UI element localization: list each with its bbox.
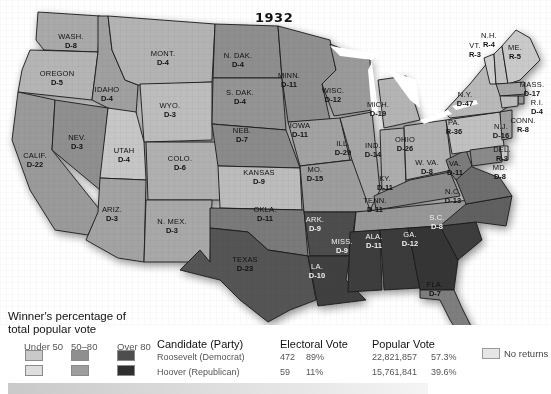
label-no-returns: No returns [504, 348, 548, 359]
label-mich: MICH.D-19 [367, 101, 389, 118]
legend-heading-line2: total popular vote [8, 323, 126, 336]
label-ind: IND.D-14 [365, 142, 381, 159]
legend-heading-line1: Winner's percentage of [8, 310, 126, 323]
label-ga: GA.D-12 [402, 231, 418, 248]
label-ark: ARK.D-9 [306, 216, 324, 233]
cell-pvpct-hoover: 39.6% [431, 367, 457, 377]
label-minn: MINN.D-11 [278, 72, 300, 89]
label-kansas: KANSASD-9 [243, 169, 275, 186]
label-nc: N.C.D-13 [445, 188, 461, 205]
label-del: DEL.R-3 [493, 146, 510, 163]
label-ndak: N. DAK.D-4 [224, 52, 253, 69]
label-tenn: TENN.D-11 [363, 197, 387, 214]
swatch-dem-50-80 [71, 350, 89, 361]
label-ky: KY.D-11 [377, 175, 393, 192]
label-calif: CALIF.D-22 [23, 152, 47, 169]
label-mo: MO.D-15 [307, 166, 323, 183]
swatch-rep-over80 [117, 365, 135, 376]
cell-pv-roosevelt: 22,821,857 [372, 352, 417, 362]
label-utah: UTAHD-4 [114, 147, 135, 164]
label-ala: ALA.D-11 [365, 233, 382, 250]
label-mass: MASS.D-17 [520, 81, 544, 98]
label-wisc: WISC.D-12 [322, 87, 345, 104]
label-wyo: WYO.D-3 [160, 102, 181, 119]
page-edge-strip [8, 383, 428, 394]
legend-heading: Winner's percentage of total popular vot… [8, 310, 126, 336]
header-candidate: Candidate (Party) [157, 338, 243, 350]
swatch-rep-50-80 [71, 365, 89, 376]
label-va: VA.D-11 [447, 160, 463, 177]
cell-ev-hoover: 59 [280, 367, 290, 377]
label-ohio: OHIOD-26 [395, 136, 415, 153]
label-conn: CONN.R-8 [510, 117, 535, 134]
label-neb: NEB.D-7 [233, 127, 251, 144]
label-vt: VT.R-3 [469, 42, 481, 59]
cell-evpct-roosevelt: 89% [306, 352, 324, 362]
label-iowa: IOWAD-11 [290, 122, 311, 139]
label-nev: NEV.D-3 [68, 134, 86, 151]
state-utah [100, 108, 146, 180]
label-oregon: OREGOND-5 [40, 70, 75, 87]
cell-pv-hoover: 15,761,841 [372, 367, 417, 377]
label-idaho: IDAHOD-4 [95, 86, 120, 103]
cell-pvpct-roosevelt: 57.3% [431, 352, 457, 362]
cell-candidate-roosevelt: Roosevelt (Democrat) [157, 352, 245, 362]
label-ri: R.I.D-4 [531, 99, 543, 116]
swatch-rep-under50 [25, 365, 43, 376]
label-ny: N.Y.D-47 [457, 91, 473, 108]
label-ariz: ARIZ.D-3 [102, 206, 122, 223]
label-nj: N.J.D-16 [493, 123, 509, 140]
state-conn [500, 96, 518, 108]
label-nh: N.H.R-4 [481, 32, 497, 49]
header-electoral: Electoral Vote [280, 338, 348, 350]
label-pa: PA.R-36 [446, 119, 462, 136]
label-nmex: N. MEX.D-3 [157, 218, 186, 235]
label-okla: OKLA.D-11 [253, 206, 276, 223]
swatch-no-returns [482, 348, 500, 359]
label-wva: W. VA.D-8 [415, 159, 439, 176]
cell-evpct-hoover: 11% [306, 367, 323, 377]
label-sdak: S. DAK.D-4 [226, 89, 254, 106]
label-sc: S.C.D-8 [429, 214, 444, 231]
label-wash: WASH.D-8 [58, 33, 83, 50]
label-fla: FLA.D-7 [427, 281, 444, 298]
label-la: LA.D-10 [309, 263, 325, 280]
label-me: ME.R-5 [508, 44, 522, 61]
label-mont: MONT.D-4 [151, 50, 175, 67]
label-miss: MISS.D-9 [331, 238, 352, 255]
swatch-dem-over80 [117, 350, 135, 361]
election-map: 1932 WASH.D-8 OREGOND-5 CALIF.D-22 NEV.D… [0, 0, 551, 325]
header-popular: Popular Vote [372, 338, 435, 350]
label-colo: COLO.D-6 [168, 155, 192, 172]
label-ill: ILL.D-29 [335, 140, 351, 157]
cell-candidate-hoover: Hoover (Republican) [157, 367, 240, 377]
cell-ev-roosevelt: 472 [280, 352, 295, 362]
label-texas: TEXASD-23 [232, 256, 258, 273]
map-title: 1932 [255, 10, 293, 25]
label-md: MD.D-8 [493, 164, 507, 181]
state-neb [212, 124, 300, 168]
swatch-dem-under50 [25, 350, 43, 361]
